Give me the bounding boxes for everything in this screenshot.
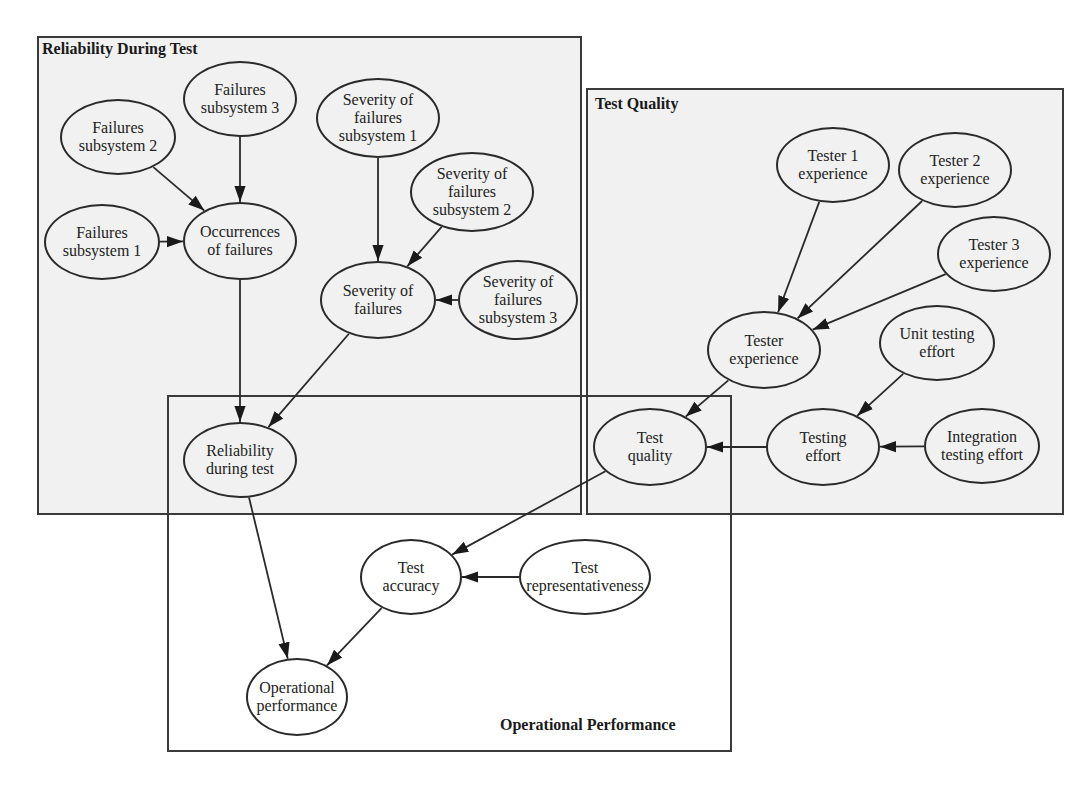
node-label: Occurrencesof failures: [200, 223, 280, 259]
node-label: Integrationtesting effort: [941, 428, 1023, 464]
node-label: Tester 3experience: [959, 236, 1028, 272]
node-occ[interactable]: Occurrencesof failures: [183, 202, 297, 280]
node-label-line: Failures: [63, 224, 142, 242]
node-label: Severity offailuressubsystem 2: [433, 165, 512, 219]
node-label: Severity offailuressubsystem 3: [479, 273, 558, 327]
node-fs1[interactable]: Failuressubsystem 1: [44, 204, 160, 280]
node-label-line: accuracy: [383, 577, 440, 595]
node-label-line: Tester 2: [920, 152, 989, 170]
node-label-line: Occurrences: [200, 223, 280, 241]
node-t3[interactable]: Tester 3experience: [937, 216, 1051, 292]
node-label-line: subsystem 3: [479, 309, 558, 327]
node-label-line: Testing: [800, 429, 847, 447]
node-label: Testerexperience: [729, 332, 798, 368]
edge-tacc-to-op: [327, 608, 382, 665]
node-label-line: subsystem 2: [79, 137, 158, 155]
node-label-line: quality: [628, 447, 672, 465]
node-label: Testquality: [628, 429, 672, 465]
node-label: Testingeffort: [800, 429, 847, 465]
edge-texp-to-tq: [686, 380, 729, 416]
node-label-line: representativeness: [526, 577, 643, 595]
edge-fs2-to-occ: [153, 167, 204, 210]
node-ute[interactable]: Unit testingeffort: [879, 305, 995, 381]
node-label-line: subsystem 3: [201, 99, 280, 117]
node-label-line: Test: [383, 559, 440, 577]
node-label-line: Reliability: [206, 442, 274, 460]
node-fs2[interactable]: Failuressubsystem 2: [60, 99, 176, 175]
node-texp[interactable]: Testerexperience: [707, 311, 821, 389]
node-label-line: failures: [339, 109, 418, 127]
edge-ute-to-te: [857, 374, 903, 416]
node-label: Testaccuracy: [383, 559, 440, 595]
node-label-line: experience: [798, 165, 867, 183]
edge-rdt-to-op: [249, 498, 288, 659]
node-label: Failuressubsystem 2: [79, 119, 158, 155]
node-label-line: Severity of: [343, 282, 414, 300]
node-label-line: Integration: [941, 428, 1023, 446]
node-t1[interactable]: Tester 1experience: [776, 127, 890, 203]
node-label-line: Severity of: [339, 91, 418, 109]
node-fs3[interactable]: Failuressubsystem 3: [183, 61, 297, 137]
node-label-line: subsystem 1: [339, 127, 418, 145]
node-label-line: Test: [526, 559, 643, 577]
node-label: Severity offailures: [343, 282, 414, 318]
node-label: Unit testingeffort: [899, 325, 974, 361]
node-label-line: Unit testing: [899, 325, 974, 343]
node-label: Failuressubsystem 1: [63, 224, 142, 260]
node-label-line: during test: [206, 460, 274, 478]
node-label-line: experience: [920, 170, 989, 188]
node-label: Failuressubsystem 3: [201, 81, 280, 117]
node-label-line: Test: [628, 429, 672, 447]
node-op[interactable]: Operationalperformance: [246, 658, 348, 736]
node-label-line: Tester 3: [959, 236, 1028, 254]
node-label-line: of failures: [200, 241, 280, 259]
node-label-line: subsystem 2: [433, 201, 512, 219]
node-label: Tester 2experience: [920, 152, 989, 188]
node-label-line: failures: [343, 300, 414, 318]
node-label-line: experience: [729, 350, 798, 368]
node-label-line: Operational: [257, 679, 338, 697]
node-label-line: failures: [479, 291, 558, 309]
node-label: Testrepresentativeness: [526, 559, 643, 595]
edge-t1-to-texp: [778, 202, 819, 312]
node-label-line: Severity of: [433, 165, 512, 183]
node-label-line: Failures: [79, 119, 158, 137]
node-sfs2[interactable]: Severity offailuressubsystem 2: [410, 152, 534, 232]
node-label-line: Tester 1: [798, 147, 867, 165]
node-sfs1[interactable]: Severity offailuressubsystem 1: [316, 78, 440, 158]
node-trep[interactable]: Testrepresentativeness: [519, 539, 651, 615]
node-sfs3[interactable]: Severity offailuressubsystem 3: [458, 260, 578, 340]
node-rdt[interactable]: Reliabilityduring test: [183, 422, 297, 498]
node-tq[interactable]: Testquality: [593, 408, 707, 486]
node-tacc[interactable]: Testaccuracy: [360, 539, 462, 615]
edge-sev-to-rdt: [268, 334, 348, 427]
node-label-line: subsystem 1: [63, 242, 142, 260]
node-label-line: testing effort: [941, 446, 1023, 464]
node-label-line: Tester: [729, 332, 798, 350]
node-sev[interactable]: Severity offailures: [320, 261, 436, 339]
node-label: Tester 1experience: [798, 147, 867, 183]
node-label-line: Severity of: [479, 273, 558, 291]
node-label-line: failures: [433, 183, 512, 201]
node-label-line: effort: [899, 343, 974, 361]
edge-sfs2-to-sev: [407, 227, 441, 266]
node-label-line: Failures: [201, 81, 280, 99]
node-label-line: experience: [959, 254, 1028, 272]
node-label-line: performance: [257, 697, 338, 715]
edge-t2-to-texp: [797, 201, 922, 318]
node-label: Reliabilityduring test: [206, 442, 274, 478]
node-te[interactable]: Testingeffort: [766, 408, 880, 486]
node-t2[interactable]: Tester 2experience: [898, 132, 1012, 208]
node-label: Operationalperformance: [257, 679, 338, 715]
node-ite[interactable]: Integrationtesting effort: [924, 408, 1040, 484]
node-label-line: effort: [800, 447, 847, 465]
node-label: Severity offailuressubsystem 1: [339, 91, 418, 145]
